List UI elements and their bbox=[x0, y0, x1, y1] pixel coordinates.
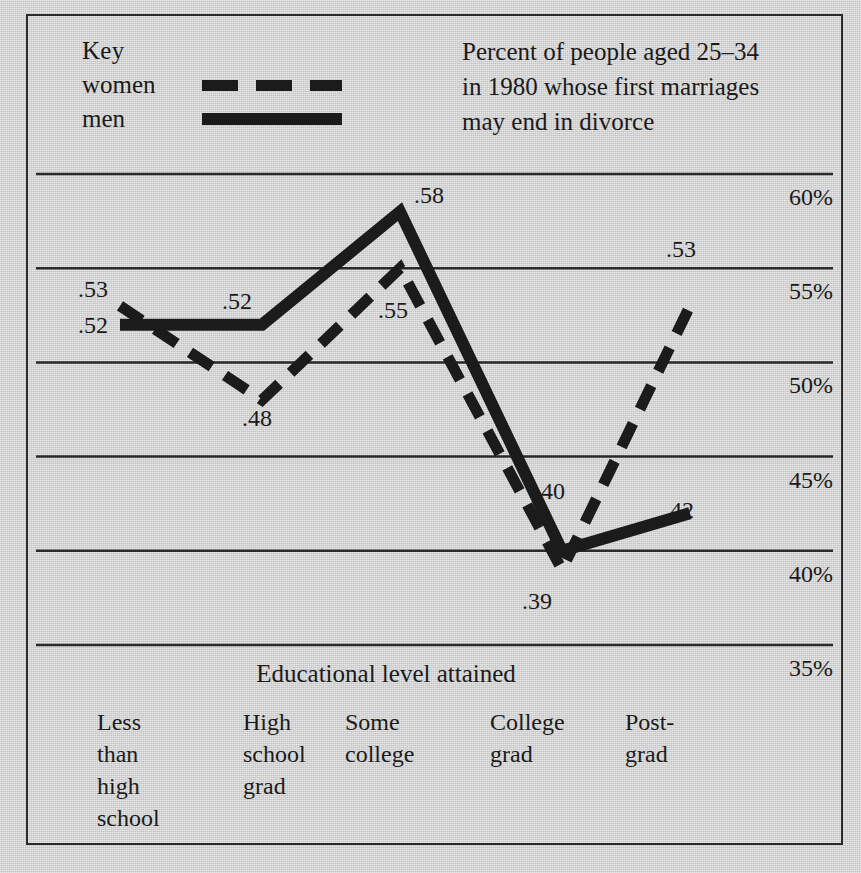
data-label-48: .48 bbox=[242, 405, 272, 432]
data-series bbox=[120, 212, 690, 570]
y-tick-50%: 50% bbox=[789, 372, 833, 399]
divorce-rate-line-chart: Key women men Percent of people aged 25–… bbox=[0, 0, 861, 873]
data-label-52: .52 bbox=[222, 288, 252, 315]
series-line-men bbox=[120, 212, 690, 551]
data-label-40: .40 bbox=[535, 478, 565, 505]
data-label-53: .53 bbox=[666, 236, 696, 263]
x-category-4: Post- grad bbox=[625, 706, 674, 770]
x-axis-title: Educational level attained bbox=[36, 660, 736, 688]
y-tick-55%: 55% bbox=[789, 278, 833, 305]
y-tick-60%: 60% bbox=[789, 184, 833, 211]
x-category-3: College grad bbox=[490, 706, 565, 770]
data-label-42: .42 bbox=[664, 497, 694, 524]
data-label-53: .53 bbox=[78, 276, 108, 303]
x-category-1: High school grad bbox=[243, 706, 306, 802]
gridlines bbox=[36, 174, 833, 645]
data-label-58: .58 bbox=[414, 182, 444, 209]
data-label-39: .39 bbox=[522, 588, 552, 615]
x-category-2: Some college bbox=[345, 706, 414, 770]
data-label-52: .52 bbox=[78, 312, 108, 339]
y-tick-45%: 45% bbox=[789, 467, 833, 494]
x-category-0: Less than high school bbox=[97, 706, 160, 834]
y-tick-35%: 35% bbox=[789, 655, 833, 682]
data-label-55: .55 bbox=[378, 297, 408, 324]
y-tick-40%: 40% bbox=[789, 561, 833, 588]
